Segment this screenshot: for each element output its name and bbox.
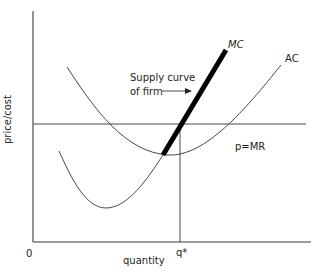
mc-curve [59,151,163,208]
ac-label: AC [285,53,299,64]
y-axis-label: price/cost [2,95,13,144]
supply-curve-segment [163,50,226,155]
x-axis-label: quantity [123,255,165,266]
origin-label: 0 [26,248,32,259]
p-mr-label: p=MR [235,141,265,152]
firm-supply-diagram: MC AC Supply curve of firm p=MR 0 q* qua… [0,0,322,273]
supply-label-line2: of firm [130,86,163,97]
q-star-label: q* [176,247,187,258]
arrow-head-icon [185,88,192,94]
supply-label-line1: Supply curve [130,72,195,83]
mc-label: MC [228,39,244,50]
